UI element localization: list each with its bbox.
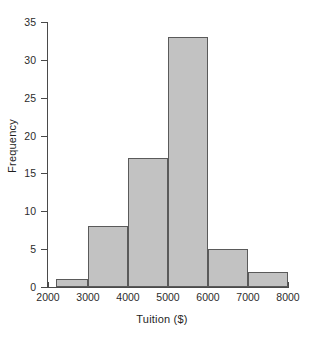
y-axis-tick: [41, 22, 47, 23]
y-axis-tick: [41, 211, 47, 212]
histogram-bar: [88, 226, 128, 287]
y-axis-tick-label: 15: [0, 168, 36, 178]
y-axis-tick: [41, 136, 47, 137]
x-axis-title: Tuition ($): [0, 313, 324, 325]
histogram-bar: [168, 37, 208, 287]
y-axis-tick-label: 10: [0, 206, 36, 216]
y-axis-tick: [41, 249, 47, 250]
y-axis-tick: [41, 98, 47, 99]
y-axis-tick-label: 25: [0, 93, 36, 103]
histogram-bar: [56, 279, 88, 287]
x-axis-tick-label: 8000: [265, 291, 311, 303]
histogram-bar: [128, 158, 168, 287]
y-axis-tick-label: 20: [0, 131, 36, 141]
x-axis-tick: [288, 282, 289, 288]
y-axis-tick-label: 5: [0, 244, 36, 254]
y-axis-title: Frequency: [6, 86, 18, 206]
histogram-bar: [248, 272, 288, 287]
y-axis-tick: [41, 60, 47, 61]
histogram-figure: Frequency 05101520253035 200030004000500…: [0, 0, 324, 345]
plot-area: [48, 22, 288, 287]
y-axis-tick: [41, 287, 47, 288]
y-axis-tick: [41, 173, 47, 174]
histogram-bar: [208, 249, 248, 287]
y-axis-tick-label: 30: [0, 55, 36, 65]
y-axis-tick-label: 35: [0, 17, 36, 27]
